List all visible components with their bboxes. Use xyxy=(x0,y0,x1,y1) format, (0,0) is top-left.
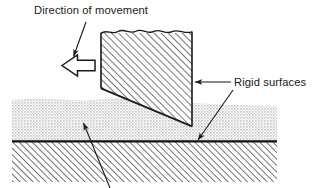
rigid-surfaces-label: Rigid surfaces xyxy=(234,76,307,88)
hatched-lower-layer xyxy=(12,141,277,182)
wedge-indentation-diagram: Direction of movement Rigid surfaces xyxy=(0,0,319,188)
direction-of-movement-leader xyxy=(74,22,87,57)
direction-of-movement-label: Direction of movement xyxy=(34,4,149,16)
lower-layer-fill xyxy=(12,141,277,182)
movement-block-arrow-icon xyxy=(62,55,95,76)
diagram-canvas: Direction of movement Rigid surfaces xyxy=(0,0,319,188)
